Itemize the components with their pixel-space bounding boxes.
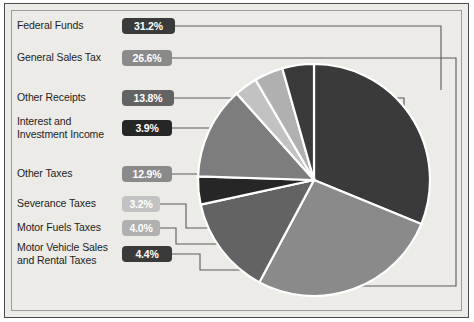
legend-label-federal-funds: Federal Funds [17, 19, 83, 32]
pie-chart [196, 62, 432, 298]
legend-label-other-taxes: Other Taxes [17, 167, 72, 180]
badge-federal-funds[interactable]: 31.2% [122, 18, 175, 34]
badge-other-taxes[interactable]: 12.9% [122, 166, 172, 182]
legend-label-general-sales-tax: General Sales Tax [17, 51, 101, 64]
legend-label-severance-taxes: Severance Taxes [17, 197, 96, 210]
badge-interest[interactable]: 3.9% [122, 120, 172, 136]
legend-label-motor-vehicle-sales: Motor Vehicle Sales and Rental Taxes [17, 241, 108, 266]
badge-severance-taxes[interactable]: 3.2% [122, 196, 160, 212]
pie-slices [198, 64, 430, 296]
badge-motor-fuels-taxes[interactable]: 4.0% [122, 220, 160, 236]
legend-label-motor-fuels-taxes: Motor Fuels Taxes [17, 221, 101, 234]
badge-other-receipts[interactable]: 13.8% [122, 90, 174, 106]
badge-general-sales-tax[interactable]: 26.6% [122, 50, 172, 66]
badge-motor-vehicle-sales[interactable]: 4.4% [122, 246, 172, 262]
legend-label-other-receipts: Other Receipts [17, 91, 86, 104]
legend-label-interest: Interest and Investment Income [17, 115, 104, 140]
